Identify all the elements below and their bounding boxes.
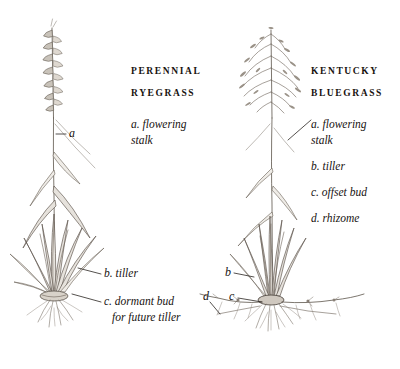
bluegrass-leader-d [210, 302, 220, 314]
bluegrass-legend-a-line1: a. flowering [311, 117, 367, 133]
ryegrass-figure [10, 19, 104, 327]
ryegrass-callout-b: b. tiller [104, 266, 138, 282]
bluegrass-leader-b [234, 273, 254, 277]
bluegrass-legend-c: c. offset bud [311, 185, 367, 201]
ryegrass-callout-c-line2: for future tiller [112, 310, 181, 326]
bluegrass-callout-c: c [229, 289, 234, 304]
ryegrass-callout-c: c. dormant bud [104, 294, 174, 310]
bluegrass-leader-a [288, 120, 311, 140]
bluegrass-callout-b: b [225, 265, 231, 280]
bluegrass-legend-a-line2: stalk [311, 133, 333, 149]
bluegrass-heading-line2: BLUEGRASS [311, 88, 383, 98]
ryegrass-callout-a: a [69, 126, 75, 141]
illustration-plate: .ln{fill:none;stroke:#52493f;stroke-widt… [0, 0, 400, 369]
ryegrass-leader-c [72, 294, 101, 302]
ryegrass-roots [27, 300, 82, 327]
ryegrass-legend-a-line1: a. flowering [131, 117, 187, 133]
bluegrass-tillers [230, 216, 306, 305]
ryegrass-heading-line1: PERENNIAL [131, 66, 201, 76]
bluegrass-legend-d: d. rhizome [311, 211, 359, 227]
ryegrass-clump [10, 214, 104, 301]
ryegrass-legend-a-line2: stalk [131, 133, 153, 149]
bluegrass-legend-b: b. tiller [311, 159, 345, 175]
bluegrass-roots [217, 302, 340, 331]
bluegrass-panicle [238, 27, 301, 118]
bluegrass-callout-d: d [203, 289, 209, 304]
bluegrass-heading-line1: KENTUCKY [311, 66, 379, 76]
ryegrass-heading-line2: RYEGRASS [131, 88, 195, 98]
ryegrass-spike [43, 19, 63, 118]
